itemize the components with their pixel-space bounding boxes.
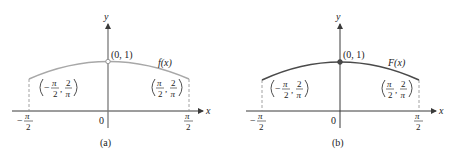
svg-text:−: − — [275, 83, 281, 94]
svg-text:π: π — [171, 89, 176, 99]
x-axis-label: x — [205, 105, 211, 116]
svg-text:,: , — [291, 85, 293, 95]
svg-text:π: π — [66, 89, 71, 99]
svg-text:2: 2 — [26, 122, 31, 132]
svg-text:2: 2 — [186, 122, 191, 132]
x-axis-label: x — [438, 105, 444, 116]
panel-caption: (b) — [332, 137, 344, 149]
svg-text:2: 2 — [53, 89, 58, 99]
y-axis-label: y — [103, 11, 109, 22]
right-tick-label: π 2 — [184, 111, 193, 132]
point-label-0-1: (0, 1) — [111, 49, 133, 61]
open-point-0-1 — [106, 59, 110, 63]
svg-text:π: π — [297, 90, 302, 100]
svg-text:2: 2 — [259, 122, 264, 132]
svg-text:2: 2 — [171, 78, 176, 88]
svg-text:π: π — [401, 90, 406, 100]
svg-text:−: − — [44, 82, 50, 93]
svg-text:π: π — [283, 79, 288, 89]
origin-label: 0 — [99, 115, 104, 126]
svg-text:π: π — [185, 111, 190, 121]
svg-text:2: 2 — [297, 79, 302, 89]
panel-b: x y (0, 1) F(x) 0 − π 2 π 2 − π 2 , 2 — [246, 11, 444, 149]
svg-text:,: , — [165, 84, 167, 94]
svg-text:2: 2 — [388, 90, 393, 100]
left-point-label: − π 2 , 2 π — [271, 79, 308, 100]
function-label: f(x) — [158, 57, 173, 69]
panel-a: x y (0, 1) f(x) 0 − π 2 π 2 − π — [12, 11, 211, 149]
left-tick-label: − π 2 — [17, 111, 33, 132]
right-point-label: π 2 , 2 π — [152, 78, 182, 99]
panel-caption: (a) — [100, 137, 111, 149]
svg-text:−: − — [250, 115, 256, 126]
svg-text:π: π — [387, 79, 392, 89]
origin-label: 0 — [331, 115, 336, 126]
svg-text:π: π — [25, 111, 30, 121]
svg-text:2: 2 — [401, 79, 406, 89]
svg-text:2: 2 — [66, 78, 71, 88]
svg-text:2: 2 — [284, 90, 289, 100]
svg-text:−: − — [17, 115, 23, 126]
right-tick-label: π 2 — [414, 111, 423, 132]
svg-text:π: π — [258, 111, 263, 121]
svg-text:π: π — [415, 111, 420, 121]
svg-text:2: 2 — [158, 89, 163, 99]
diagram-canvas: x y (0, 1) f(x) 0 − π 2 π 2 − π — [0, 0, 456, 154]
point-label-0-1: (0, 1) — [343, 49, 365, 61]
left-tick-label: − π 2 — [250, 111, 266, 132]
svg-text:,: , — [395, 85, 397, 95]
svg-text:2: 2 — [416, 122, 421, 132]
function-label: F(x) — [387, 57, 406, 69]
svg-text:,: , — [60, 84, 62, 94]
filled-point-0-1 — [338, 60, 343, 65]
svg-text:π: π — [52, 78, 57, 88]
right-point-label: π 2 , 2 π — [382, 79, 412, 100]
y-axis-label: y — [335, 11, 341, 22]
left-point-label: − π 2 , 2 π — [40, 78, 77, 99]
svg-text:π: π — [157, 78, 162, 88]
